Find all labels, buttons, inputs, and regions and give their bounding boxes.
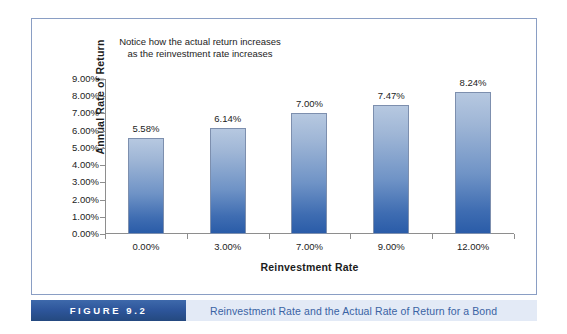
bar[interactable]: [455, 92, 491, 234]
y-axis-tick-label: 1.00%: [49, 212, 99, 222]
bar-group: 6.14%: [187, 79, 269, 234]
x-axis-tick-mark: [105, 234, 106, 239]
y-axis-tick-label: 9.00%: [49, 74, 99, 84]
figure-root: Annual Rate of Return 9.00%8.00%7.00%6.0…: [0, 0, 567, 334]
x-axis-tick-mark: [187, 234, 188, 239]
bar[interactable]: [128, 138, 164, 234]
bar-group: 7.47%: [350, 79, 432, 234]
y-axis-tick-label: 8.00%: [49, 91, 99, 101]
x-axis-tick-label: 0.00%: [132, 241, 159, 252]
plot-area: Annual Rate of Return 9.00%8.00%7.00%6.0…: [32, 19, 536, 294]
y-axis-tick-mark: [100, 113, 105, 114]
y-axis-tick-label: 5.00%: [49, 143, 99, 153]
y-axis-tick-label: 2.00%: [49, 195, 99, 205]
y-axis-tick-label: 0.00%: [49, 229, 99, 239]
figure-number-label: FIGURE 9.2: [70, 305, 148, 316]
y-axis-tick-mark: [100, 148, 105, 149]
bar-group: 8.24%: [432, 79, 514, 234]
y-axis-tick-mark: [100, 200, 105, 201]
bar[interactable]: [373, 105, 409, 234]
chart-frame: Annual Rate of Return 9.00%8.00%7.00%6.0…: [31, 18, 537, 295]
figure-caption-box: Reinvestment Rate and the Actual Rate of…: [186, 300, 537, 321]
y-axis-tick-mark: [100, 182, 105, 183]
bar-value-label: 6.14%: [214, 113, 241, 124]
y-axis-tick-label: 7.00%: [49, 108, 99, 118]
y-axis-tick-label: 3.00%: [49, 177, 99, 187]
bar[interactable]: [291, 113, 327, 234]
x-axis-tick-mark: [269, 234, 270, 239]
x-axis-tick-mark: [432, 234, 433, 239]
bar-value-label: 8.24%: [460, 77, 487, 88]
figure-number-box: FIGURE 9.2: [31, 300, 186, 321]
figure-caption-strip: FIGURE 9.2 Reinvestment Rate and the Act…: [31, 300, 537, 321]
y-axis-tick-label: 6.00%: [49, 126, 99, 136]
figure-caption-label: Reinvestment Rate and the Actual Rate of…: [210, 305, 497, 317]
y-axis-tick-mark: [100, 79, 105, 80]
y-axis-tick-labels: 9.00%8.00%7.00%6.00%5.00%4.00%3.00%2.00%…: [49, 74, 99, 234]
x-axis-tick-label: 12.00%: [457, 241, 489, 252]
bar-group: 7.00%: [269, 79, 351, 234]
bar[interactable]: [210, 128, 246, 234]
y-axis-tick-mark: [100, 131, 105, 132]
bars-layer: 5.58%6.14%7.00%7.47%8.24%: [105, 79, 514, 234]
bar-value-label: 7.00%: [296, 98, 323, 109]
y-axis-tick-label: 4.00%: [49, 160, 99, 170]
y-axis-tick-mark: [100, 165, 105, 166]
x-axis-tick-label: 9.00%: [378, 241, 405, 252]
x-axis-title: Reinvestment Rate: [105, 261, 514, 273]
y-axis-tick-mark: [100, 96, 105, 97]
x-axis-tick-labels: 0.00%3.00%7.00%9.00%12.00%: [105, 241, 514, 255]
bar-group: 5.58%: [105, 79, 187, 234]
x-axis-tick-label: 3.00%: [214, 241, 241, 252]
x-axis-tick-mark: [514, 234, 515, 239]
bar-value-label: 7.47%: [378, 90, 405, 101]
x-axis-tick-mark: [350, 234, 351, 239]
x-axis-tick-label: 7.00%: [296, 241, 323, 252]
bar-value-label: 5.58%: [132, 123, 159, 134]
y-axis-tick-mark: [100, 217, 105, 218]
chart-annotation-note: Notice how the actual return increases a…: [115, 36, 285, 61]
